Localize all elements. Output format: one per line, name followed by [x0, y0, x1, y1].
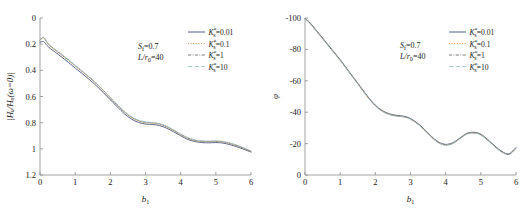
- annotation-value: =40: [151, 53, 164, 62]
- legend-value: =0.1: [216, 40, 230, 49]
- x-axis-title: b1: [142, 194, 150, 205]
- annotation-2: L/r0=40: [137, 53, 163, 63]
- annotation-1: Sf=0.7: [400, 41, 421, 51]
- legend-value: =0.01: [216, 28, 234, 37]
- y-tick-label: 0: [32, 13, 36, 23]
- y-tick-label: -100: [285, 13, 301, 23]
- legend-value: =0.01: [477, 28, 495, 37]
- x-tick-label: 5: [479, 177, 483, 187]
- annotation-2: L/r0=40: [399, 52, 425, 62]
- legend-label-0: K*s=0.01: [469, 26, 495, 38]
- y-tick-label: -80: [290, 44, 301, 54]
- y-tick-label: 0.2: [25, 39, 36, 49]
- annotation-value: =0.7: [406, 41, 421, 50]
- legend-label-1: K*s=0.1: [208, 38, 230, 50]
- y-tick-label: 0.6: [25, 92, 36, 102]
- annotation-1: Sf=0.7: [138, 42, 159, 52]
- x-tick-label: 2: [108, 177, 112, 187]
- x-tick-label: 3: [143, 177, 147, 187]
- y-tick-label: -40: [290, 107, 301, 117]
- legend-value: =0.1: [477, 40, 491, 49]
- y-tick-label: -20: [290, 139, 301, 149]
- y-tick-label: 0.4: [25, 65, 36, 75]
- y-axis-title: φ: [270, 94, 280, 99]
- x-tick-label: 0: [38, 177, 42, 187]
- legend-value: =10: [216, 63, 228, 72]
- x-tick-label: 4: [179, 177, 184, 187]
- x-tick-label: 1: [338, 177, 342, 187]
- y-tick-label: 0.8: [25, 118, 36, 128]
- x-tick-label: 4: [444, 177, 449, 187]
- annotation-value: =0.7: [144, 42, 159, 51]
- left-panel: 012345600.20.40.60.811.2b1|Hᵤ/Hᵤ(ω=0)|Sf…: [0, 0, 263, 223]
- figure-container: 012345600.20.40.60.811.2b1|Hᵤ/Hᵤ(ω=0)|Sf…: [0, 0, 526, 223]
- right-panel: 0123456-100-80-60-40-200b1φSf=0.7L/r0=40…: [263, 0, 526, 223]
- left-plot-svg: 012345600.20.40.60.811.2b1|Hᵤ/Hᵤ(ω=0)|Sf…: [0, 0, 263, 223]
- y-tick-label: -60: [290, 76, 301, 86]
- y-tick-label: 1.2: [25, 170, 36, 180]
- legend-label-2: K*s=1: [208, 49, 224, 61]
- legend-label-2: K*s=1: [469, 49, 485, 61]
- legend-value: =1: [477, 51, 485, 60]
- legend-label-0: K*s=0.01: [208, 26, 234, 38]
- y-axis-title: |Hᵤ/Hᵤ(ω=0)|: [5, 72, 15, 121]
- annotation-value: =40: [413, 52, 426, 61]
- legend-label-3: K*s=10: [469, 61, 489, 73]
- y-tick-label: 1: [32, 144, 36, 154]
- x-tick-label: 1: [73, 177, 77, 187]
- x-axis-title-sub: 1: [411, 198, 414, 205]
- x-tick-label: 6: [249, 177, 253, 187]
- legend-label-1: K*s=0.1: [469, 38, 491, 50]
- x-tick-label: 0: [303, 177, 307, 187]
- legend-label-3: K*s=10: [208, 61, 228, 73]
- y-tick-label: 0: [297, 170, 301, 180]
- x-tick-label: 3: [408, 177, 412, 187]
- x-tick-label: 6: [514, 177, 518, 187]
- x-tick-label: 5: [214, 177, 218, 187]
- right-plot-svg: 0123456-100-80-60-40-200b1φSf=0.7L/r0=40…: [263, 0, 526, 223]
- x-axis-title-sub: 1: [146, 198, 149, 205]
- legend-value: =1: [216, 51, 224, 60]
- legend-value: =10: [477, 63, 489, 72]
- x-tick-label: 2: [373, 177, 377, 187]
- x-axis-title: b1: [407, 194, 415, 205]
